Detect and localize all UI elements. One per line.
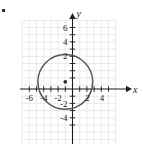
grid-lines <box>22 20 116 144</box>
coordinate-plane-graph: -6 -4 -2 2 4 6 4 2 -2 -4 x y <box>0 0 141 152</box>
graph-figure: -6 -4 -2 2 4 6 4 2 -2 -4 x y <box>0 0 141 152</box>
y-axis-label: y <box>76 8 82 19</box>
x-axis-label: x <box>132 84 138 95</box>
axis-arrowheads <box>69 13 132 92</box>
y-tick-label-neg4: -4 <box>60 113 68 123</box>
x-tick-label-pos4: 4 <box>100 93 105 103</box>
y-tick-label-4: 4 <box>63 37 68 47</box>
y-tick-label-neg2: -2 <box>60 99 68 109</box>
y-axis-arrow <box>69 13 75 19</box>
x-tick-label-neg4: -4 <box>40 93 48 103</box>
y-tick-label-6: 6 <box>63 23 68 33</box>
x-axis-arrow <box>126 86 132 92</box>
x-tick-label-neg6: -6 <box>26 93 34 103</box>
x-tick-label-pos2: 2 <box>85 93 90 103</box>
y-tick-label-2: 2 <box>63 51 68 61</box>
circle-center-point <box>63 80 67 84</box>
